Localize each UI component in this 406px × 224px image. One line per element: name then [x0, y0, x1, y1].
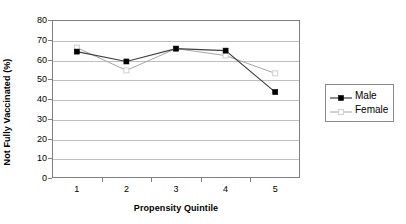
legend-label: Female: [355, 105, 388, 115]
data-point-marker: [273, 71, 278, 76]
legend-entry-male: Male: [329, 89, 388, 103]
data-point-marker: [223, 53, 228, 58]
chart-figure: Not Fully Vaccinated (%) 010203040506070…: [0, 0, 406, 224]
x-axis-tick-label: 1: [74, 184, 79, 194]
data-point-marker: [124, 68, 129, 73]
legend-label: Male: [355, 91, 377, 101]
x-axis-tick-label: 3: [173, 184, 178, 194]
y-axis-title: Not Fully Vaccinated (%): [0, 0, 14, 224]
y-axis-tick-label: 30: [28, 114, 47, 123]
data-point-marker: [74, 49, 79, 54]
legend-entry-female: Female: [329, 103, 388, 117]
legend-key-female-icon: [329, 104, 353, 116]
x-axis-tick-mark: [102, 178, 103, 182]
x-axis-tick-label: 2: [124, 184, 129, 194]
y-axis-tick-label: 0: [28, 174, 47, 183]
chart-legend: MaleFemale: [325, 84, 394, 122]
y-axis-tick-label: 50: [28, 75, 47, 84]
y-axis-tick-label: 80: [28, 16, 47, 25]
y-axis-tick-label: 60: [28, 55, 47, 64]
data-series-layer: [52, 20, 300, 178]
x-axis-tick-label: 4: [223, 184, 228, 194]
data-point-marker: [124, 59, 129, 64]
data-point-marker: [273, 90, 278, 95]
x-axis-tick-mark: [201, 178, 202, 182]
data-point-marker: [174, 46, 179, 51]
y-axis-tick-label: 70: [28, 35, 47, 44]
x-axis-tick-label: 5: [273, 184, 278, 194]
data-point-marker: [223, 48, 228, 53]
series-line-male: [77, 49, 275, 92]
y-axis-tick-label: 20: [28, 134, 47, 143]
x-axis-tick-labels: 12345: [52, 184, 300, 197]
y-axis-tick-label: 10: [28, 154, 47, 163]
x-axis-tick-marks: [52, 178, 300, 182]
x-axis-tick-mark: [151, 178, 152, 182]
x-axis-tick-mark: [250, 178, 251, 182]
data-point-marker: [339, 110, 344, 115]
y-axis-tick-label: 40: [28, 95, 47, 104]
y-axis-tick-labels: 01020304050607080: [28, 20, 47, 178]
legend-key-male-icon: [329, 90, 353, 102]
data-point-marker: [339, 96, 344, 101]
x-axis-title: Propensity Quintile: [52, 203, 300, 213]
